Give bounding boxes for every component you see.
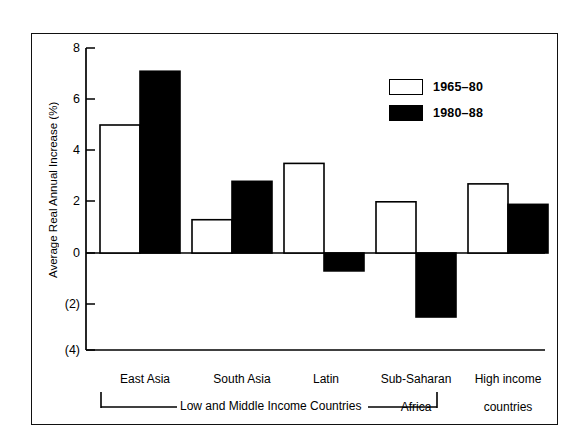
category-label-latin-america: Latin America bbox=[283, 358, 369, 428]
y-tick-label-6: 6 bbox=[36, 93, 80, 106]
legend-label-1965-80: 1965–80 bbox=[433, 80, 483, 94]
category-label-line1: High income bbox=[460, 372, 556, 386]
category-label-line1: East Asia bbox=[93, 372, 197, 386]
legend-label-1980-88: 1980–88 bbox=[433, 106, 483, 120]
category-label-line1: South Asia bbox=[190, 372, 294, 386]
category-label-line1: Sub-Saharan bbox=[364, 372, 468, 386]
y-tick-label-neg4: (4) bbox=[36, 344, 80, 357]
chart-legend: 1965–80 1980–88 bbox=[389, 76, 539, 128]
legend-item-1980-88: 1980–88 bbox=[389, 102, 539, 124]
y-tick-label-4: 4 bbox=[36, 144, 80, 157]
category-label-line2: Africa bbox=[364, 400, 468, 414]
category-label-line2: countries bbox=[460, 400, 556, 414]
category-label-sub-saharan-africa: Sub-Saharan Africa bbox=[364, 358, 468, 428]
legend-item-1965-80: 1965–80 bbox=[389, 76, 539, 98]
legend-swatch-hollow-icon bbox=[389, 79, 423, 95]
y-tick-label-neg2: (2) bbox=[36, 298, 80, 311]
category-label-high-income: High income countries bbox=[460, 358, 556, 428]
group-bracket-caption: Low and Middle Income Countries bbox=[177, 399, 364, 413]
legend-swatch-filled-icon bbox=[389, 105, 423, 121]
y-tick-label-8: 8 bbox=[36, 42, 80, 55]
category-label-line1: Latin bbox=[283, 372, 369, 386]
y-tick-label-2: 2 bbox=[36, 195, 80, 208]
y-tick-label-0: 0 bbox=[36, 247, 80, 260]
